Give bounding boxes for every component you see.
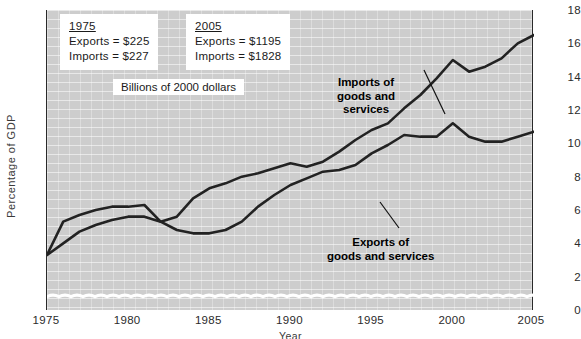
y-tick-14: 14 — [543, 71, 581, 83]
y-tick-10: 10 — [543, 137, 581, 149]
x-tick-1985: 1985 — [178, 314, 238, 326]
exports-leader-line — [380, 202, 399, 228]
x-tick-1990: 1990 — [260, 314, 320, 326]
info-box-1975-exports: Exports = $225 — [69, 34, 149, 49]
exports-series-label-line1: Exports of — [327, 236, 434, 250]
imports-leader-line — [424, 70, 445, 114]
info-box-1975-imports: Imports = $227 — [69, 49, 149, 64]
y-tick-16: 16 — [543, 37, 581, 49]
imports-series-label-line2: goods and — [337, 90, 395, 104]
y-tick-12: 12 — [543, 104, 581, 116]
x-tick-2005: 2005 — [501, 314, 561, 326]
x-tick-1980: 1980 — [97, 314, 157, 326]
info-box-1975: 1975 Exports = $225 Imports = $227 — [60, 14, 158, 70]
imports-series-label-line1: Imports of — [337, 76, 395, 90]
exports-series-label: Exports of goods and services — [327, 236, 434, 263]
x-axis-label: Year — [0, 330, 581, 339]
info-box-2005-exports: Exports = $1195 — [195, 34, 281, 49]
info-box-1975-year: 1975 — [69, 19, 149, 34]
y-axis-label: Percentage of GDP — [5, 106, 17, 226]
series-line-exports — [47, 123, 534, 255]
imports-series-label: Imports of goods and services — [337, 76, 395, 117]
exports-series-label-line2: goods and services — [327, 250, 434, 264]
units-note: Billions of 2000 dollars — [113, 79, 244, 95]
x-tick-1995: 1995 — [341, 314, 401, 326]
y-tick-18: 18 — [543, 4, 581, 16]
x-tick-1975: 1975 — [16, 314, 76, 326]
info-box-2005-imports: Imports = $1828 — [195, 49, 281, 64]
info-box-2005: 2005 Exports = $1195 Imports = $1828 — [186, 14, 290, 70]
y-tick-8: 8 — [543, 171, 581, 183]
info-box-2005-year: 2005 — [195, 19, 281, 34]
y-tick-6: 6 — [543, 204, 581, 216]
chart-figure: 18 16 14 12 10 8 6 4 2 0 Percentage of G… — [0, 0, 581, 339]
imports-series-label-line3: services — [337, 103, 395, 117]
y-tick-2: 2 — [543, 271, 581, 283]
x-tick-2000: 2000 — [422, 314, 482, 326]
y-tick-4: 4 — [543, 237, 581, 249]
axis-break-wave — [47, 295, 534, 297]
